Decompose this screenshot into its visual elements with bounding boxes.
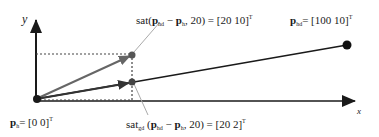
x-axis-label: x xyxy=(357,107,361,116)
origin-point xyxy=(33,95,41,103)
sat-gd-point xyxy=(129,79,136,86)
origin-label: ph= [0 0]T xyxy=(10,116,53,129)
target-point xyxy=(343,41,352,50)
leader-sat-gd xyxy=(134,84,148,115)
sat-point xyxy=(129,52,136,59)
sat-gd-vector xyxy=(36,83,129,99)
sat-label: sat(phd − ph, 20) = [20 10]T xyxy=(136,14,253,27)
sat-gd-label: satgd (phd − ph, 20) = [20 2]T xyxy=(126,118,246,131)
saturation-diagram: y x sat(phd − ph, 20) = [20 10]T phd= [1… xyxy=(0,0,379,137)
y-axis-label: y xyxy=(22,13,27,25)
target-label: phd= [100 10]T xyxy=(290,14,352,27)
sat-vector xyxy=(36,56,130,99)
